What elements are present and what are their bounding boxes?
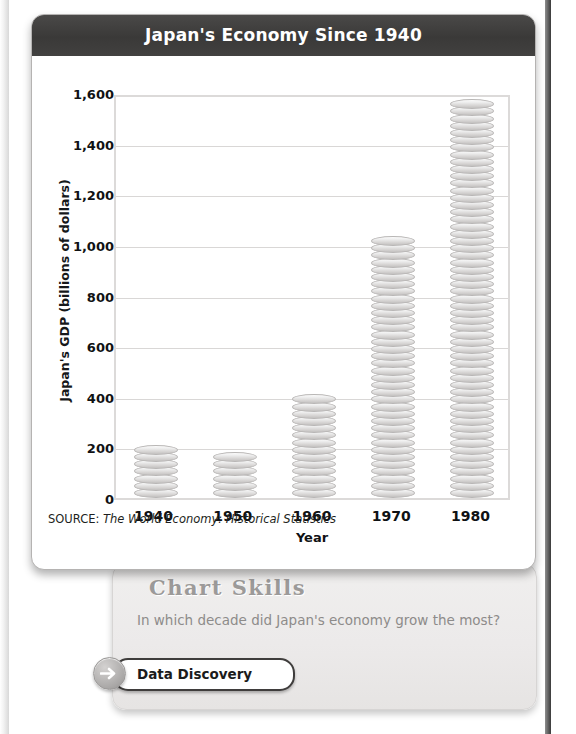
y-tick-label: 1,400 bbox=[44, 138, 114, 153]
source-title: The World Economy: Historical Statistics bbox=[103, 512, 336, 526]
source-prefix: SOURCE: bbox=[48, 512, 99, 526]
coin bbox=[213, 452, 257, 462]
arrow-right-glyph bbox=[100, 665, 119, 682]
plot-wrapper: Japan's GDP (billions of dollars) 020040… bbox=[32, 56, 535, 569]
y-tick-label: 400 bbox=[44, 391, 114, 406]
x-axis-title: Year bbox=[114, 530, 510, 545]
chart-title-bar: Japan's Economy Since 1940 bbox=[32, 15, 535, 56]
gridline bbox=[116, 247, 508, 248]
x-tick-label: 1980 bbox=[425, 508, 515, 524]
bar-coin-stack bbox=[450, 101, 494, 498]
plot-area bbox=[114, 95, 510, 500]
chart-title: Japan's Economy Since 1940 bbox=[32, 25, 535, 45]
gridline bbox=[116, 348, 508, 349]
y-tick-label: 800 bbox=[44, 290, 114, 305]
y-tick-label: 600 bbox=[44, 340, 114, 355]
bar-coin-stack bbox=[371, 242, 415, 498]
chart-skills-heading: Chart Skills bbox=[149, 575, 306, 600]
bar-coin-stack bbox=[292, 402, 336, 498]
data-discovery-button[interactable]: Data Discovery bbox=[113, 658, 295, 691]
arrow-right-icon[interactable] bbox=[93, 657, 126, 690]
page-left-edge bbox=[0, 0, 9, 734]
gridline bbox=[116, 146, 508, 147]
gridline bbox=[116, 298, 508, 299]
y-axis-ticks: 02004006008001,0001,2001,4001,600 bbox=[44, 56, 114, 496]
y-tick-label: 1,000 bbox=[44, 239, 114, 254]
gridline bbox=[116, 196, 508, 197]
y-tick-label: 200 bbox=[44, 441, 114, 456]
coin bbox=[134, 445, 178, 455]
y-tick-label: 0 bbox=[44, 492, 114, 507]
source-line: SOURCE: The World Economy: Historical St… bbox=[48, 512, 336, 526]
coin bbox=[371, 236, 415, 246]
y-tick-label: 1,600 bbox=[44, 87, 114, 102]
bar-coin-stack bbox=[134, 447, 178, 498]
bar-coin-stack bbox=[213, 458, 257, 499]
x-tick-label: 1970 bbox=[346, 508, 436, 524]
chart-card: Japan's Economy Since 1940 Japan's GDP (… bbox=[31, 14, 536, 570]
y-tick-label: 1,200 bbox=[44, 188, 114, 203]
page-spread-edge bbox=[545, 0, 551, 734]
data-discovery-label: Data Discovery bbox=[137, 666, 252, 682]
chart-skills-question: In which decade did Japan's economy grow… bbox=[137, 612, 517, 628]
